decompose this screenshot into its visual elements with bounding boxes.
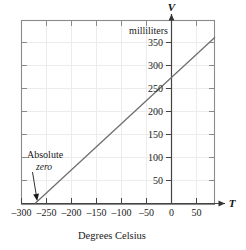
plot-frame [22, 21, 215, 205]
annotation-leader-line [33, 172, 37, 197]
y-tick-label: 100 [148, 152, 163, 163]
grid-lines [21, 20, 215, 205]
y-tick-label: 350 [148, 37, 163, 48]
y-axis-symbol: V [168, 1, 177, 13]
y-tick-label: 150 [148, 129, 163, 140]
x-tick-label: –250 [36, 207, 57, 218]
x-tick-label: –50 [138, 207, 154, 218]
x-tick-label: –150 [86, 207, 107, 218]
y-axis-arrowhead [169, 14, 175, 21]
absolute-zero-arrow [33, 172, 40, 201]
x-tick-label: 0 [169, 207, 174, 218]
y-axis-unit-label: milliliters [129, 25, 168, 36]
x-tick-labels: –300 –250 –200 –150 –100 –50 0 50 [11, 207, 202, 218]
volume-temperature-line-chart: 350 300 250 200 150 100 50 –300 –250 –20… [0, 0, 246, 250]
absolute-zero-label-line1: Absolute [27, 149, 64, 160]
x-tick-label: 50 [192, 207, 202, 218]
x-axis-arrowhead [219, 201, 226, 207]
y-tick-label: 200 [148, 106, 163, 117]
absolute-zero-label-line2: zero [35, 162, 52, 172]
y-tick-label: 50 [153, 175, 163, 186]
chart-figure: 350 300 250 200 150 100 50 –300 –250 –20… [0, 0, 246, 250]
x-axis [22, 198, 226, 206]
y-tick-label: 250 [148, 83, 163, 94]
x-tick-label: –200 [61, 207, 82, 218]
y-tick-labels: 350 300 250 200 150 100 50 [148, 37, 163, 186]
x-axis-caption: Degrees Celsius [78, 230, 146, 241]
x-tick-label: –300 [11, 207, 32, 218]
data-line-volume [35, 37, 215, 203]
x-axis-symbol: T [229, 197, 237, 209]
y-tick-label: 300 [148, 60, 163, 71]
x-tick-label: –100 [111, 207, 132, 218]
